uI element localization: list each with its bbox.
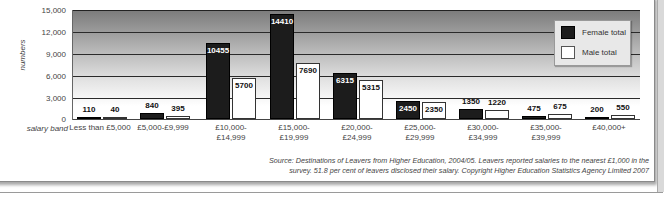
bar-value-label: 675	[545, 102, 575, 111]
category-label: £30,000-£34,999	[451, 123, 515, 143]
bar-value-label: 7690	[293, 66, 323, 75]
bar-female	[459, 109, 483, 119]
bar-value-label: 5700	[229, 81, 259, 90]
bar-value-label: 550	[608, 103, 638, 112]
source-line-2: survey. 51.8 per cent of leavers disclos…	[49, 166, 649, 176]
category-label: £15,000-£19,999	[262, 123, 326, 143]
category-label: £10,000-£14,999	[199, 123, 263, 143]
bar-value-label: 5315	[356, 83, 386, 92]
bar-male	[103, 117, 127, 119]
legend-male-label: Male total	[582, 48, 617, 57]
y-axis	[72, 10, 73, 120]
y-tick: 15,000	[14, 6, 66, 15]
bar-value-label: 2350	[419, 105, 449, 114]
bar-female	[140, 113, 164, 119]
category-label: £40,000+	[577, 123, 641, 133]
category-label: £25,000-£29,999	[388, 123, 452, 143]
bar-female	[270, 14, 294, 119]
female-swatch-icon	[561, 26, 575, 39]
bar-female	[585, 117, 609, 119]
bar-male	[548, 114, 572, 119]
legend: Female total Male total	[554, 20, 631, 66]
bar-female	[522, 116, 546, 119]
category-label: Less than £5,000	[68, 123, 132, 133]
source-note: Source: Destinations of Leavers from Hig…	[49, 156, 649, 176]
x-axis-title: salary band	[4, 124, 68, 133]
bar-value-label: 395	[163, 104, 193, 113]
bar-female	[77, 117, 101, 119]
category-label: £5,000-£9,999	[131, 123, 195, 133]
bar-value-label: 40	[100, 105, 130, 114]
bar-male	[485, 110, 509, 119]
bar-value-label: 10455	[203, 46, 233, 55]
y-tick: 3,000	[14, 94, 66, 103]
category-label: £35,000-£39,999	[514, 123, 578, 143]
page-edge	[657, 0, 664, 192]
bar-value-label: 14410	[267, 17, 297, 26]
bar-male	[611, 115, 635, 119]
bar-value-label: 1220	[482, 98, 512, 107]
divider	[0, 192, 663, 193]
source-line-1: Source: Destinations of Leavers from Hig…	[49, 156, 649, 166]
bar-male	[166, 116, 190, 119]
x-axis	[72, 119, 640, 120]
y-tick: 0	[14, 115, 66, 124]
y-axis-title: numbers	[18, 35, 27, 75]
legend-female-label: Female total	[582, 28, 626, 37]
category-label: £20,000-£24,999	[325, 123, 389, 143]
male-swatch-icon	[561, 46, 575, 59]
